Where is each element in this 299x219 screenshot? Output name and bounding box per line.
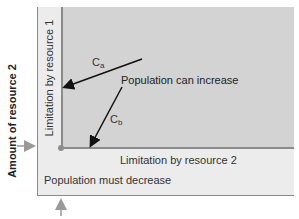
vector-ca-arrow bbox=[65, 59, 142, 87]
vector-cb-arrow bbox=[91, 87, 122, 145]
arrows-layer bbox=[0, 0, 299, 219]
